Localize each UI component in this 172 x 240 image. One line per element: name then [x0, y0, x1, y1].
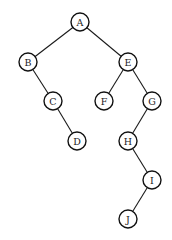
binary-tree-diagram: ABECFGDHIJ: [0, 0, 172, 240]
node-label: I: [150, 175, 154, 186]
edge-a-b: [28, 22, 80, 62]
node-label: F: [101, 96, 108, 107]
node-label: A: [76, 17, 84, 28]
node-label: H: [124, 136, 132, 147]
tree-node-g: G: [143, 92, 161, 110]
tree-node-d: D: [68, 132, 86, 150]
tree-node-f: F: [95, 92, 113, 110]
tree-node-i: I: [143, 171, 161, 189]
tree-node-a: A: [71, 13, 89, 31]
node-label: E: [125, 57, 132, 68]
tree-node-j: J: [119, 210, 137, 228]
node-label: C: [49, 96, 56, 107]
node-label: D: [73, 136, 81, 147]
tree-edges: [28, 22, 152, 219]
tree-node-h: H: [119, 132, 137, 150]
node-label: B: [25, 57, 32, 68]
node-label: G: [148, 96, 156, 107]
node-label: J: [125, 214, 130, 225]
tree-node-e: E: [119, 53, 137, 71]
tree-node-c: C: [44, 92, 62, 110]
tree-node-b: B: [19, 53, 37, 71]
